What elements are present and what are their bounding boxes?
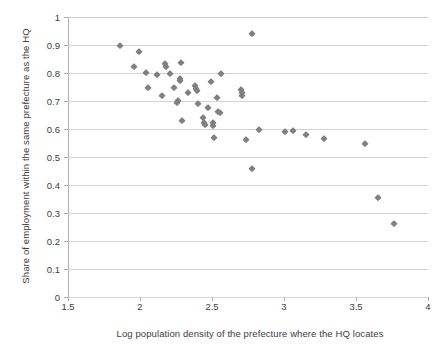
gridline (68, 185, 428, 186)
data-point (248, 30, 256, 38)
gridline (68, 17, 428, 18)
gridline (68, 101, 428, 102)
data-point (153, 71, 161, 79)
y-tick-label: 0.4 (26, 180, 60, 191)
x-axis-title: Log population density of the prefecture… (60, 328, 440, 339)
x-tick-label: 2 (120, 301, 160, 312)
x-tick-label: 3 (264, 301, 304, 312)
plot-area (68, 17, 428, 297)
data-point (320, 136, 328, 144)
gridline (68, 297, 428, 298)
data-point (217, 71, 225, 79)
data-point (204, 104, 212, 112)
x-tick-label: 1.5 (48, 301, 88, 312)
y-tick-label: 1 (26, 12, 60, 23)
y-tick-label: 0.1 (26, 264, 60, 275)
data-point (178, 118, 186, 126)
data-point (130, 64, 138, 72)
y-tick-label: 0.6 (26, 124, 60, 135)
y-tick-label: 0.8 (26, 68, 60, 79)
data-point (144, 84, 152, 92)
data-point (375, 194, 383, 202)
data-point (255, 126, 263, 134)
scatter-chart: Share of employment within the same pref… (0, 0, 448, 348)
x-tick-label: 2.5 (192, 301, 232, 312)
data-point (248, 165, 256, 173)
y-tick-label: 0.5 (26, 152, 60, 163)
data-point (184, 90, 192, 98)
data-point (159, 92, 167, 100)
data-point (303, 131, 311, 139)
data-point (210, 134, 218, 142)
y-tick-label: 0.3 (26, 208, 60, 219)
x-tick-mark (428, 297, 429, 301)
x-tick-label: 3.5 (336, 301, 376, 312)
data-point (143, 69, 151, 77)
gridline (68, 269, 428, 270)
data-point (116, 42, 124, 50)
gridline (68, 213, 428, 214)
data-point (390, 220, 398, 228)
gridline (68, 241, 428, 242)
y-tick-label: 0.2 (26, 236, 60, 247)
data-point (207, 78, 215, 86)
data-point (170, 84, 178, 92)
gridline (68, 73, 428, 74)
data-point (177, 59, 185, 67)
gridline (68, 129, 428, 130)
x-tick-label: 4 (408, 301, 448, 312)
data-point (242, 137, 250, 145)
y-tick-label: 0.9 (26, 40, 60, 51)
data-point (135, 48, 143, 56)
gridline (68, 157, 428, 158)
data-point (216, 109, 224, 117)
y-tick-label: 0.7 (26, 96, 60, 107)
data-point (362, 140, 370, 148)
